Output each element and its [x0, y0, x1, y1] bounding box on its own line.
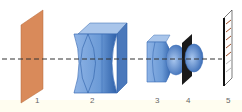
- label-3: 3: [155, 96, 159, 105]
- label-5: 5: [226, 96, 230, 105]
- label-4: 4: [186, 96, 190, 105]
- label-1: 1: [35, 96, 39, 105]
- label-2: 2: [90, 96, 94, 105]
- plate-1: [21, 10, 43, 103]
- screen-5: [224, 10, 232, 86]
- lens-group-2: [74, 23, 127, 93]
- optical-diagram: 1 2 3 4 5: [0, 0, 242, 112]
